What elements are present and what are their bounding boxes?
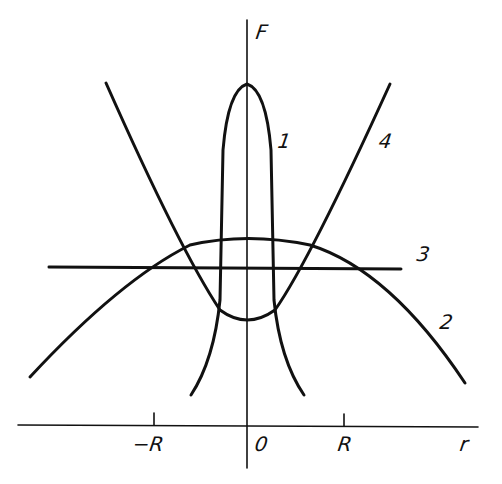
- tick-label-minus-r: −R: [132, 434, 165, 454]
- tick-label-r: R: [337, 434, 354, 454]
- y-axis-label: F: [255, 22, 269, 42]
- curve-3: [49, 267, 401, 269]
- figure: F r 0 −R R 1 4 3 2: [0, 0, 502, 484]
- curve-4: [106, 83, 390, 320]
- x-axis: [18, 425, 478, 427]
